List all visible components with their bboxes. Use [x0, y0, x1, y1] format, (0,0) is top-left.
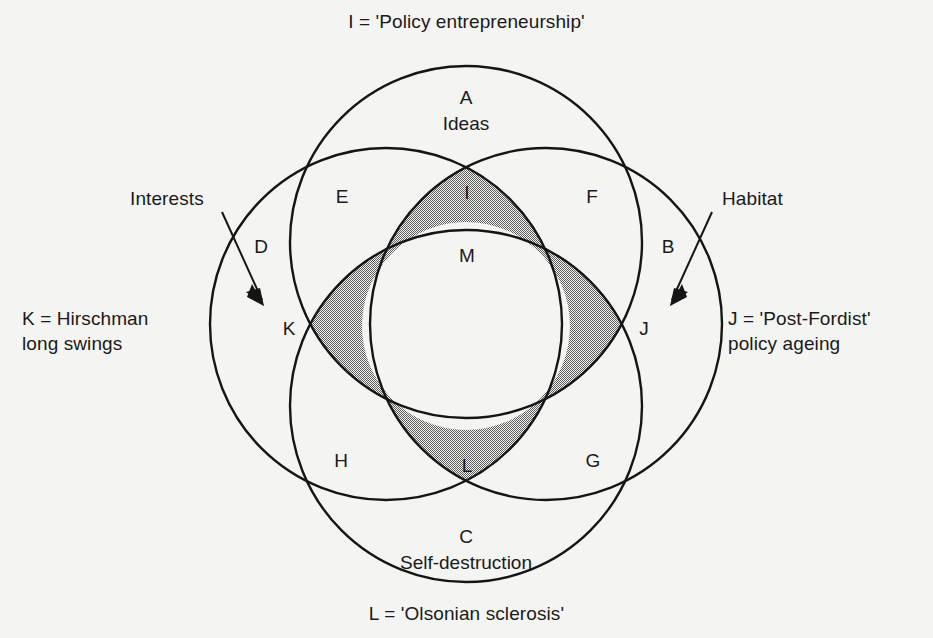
interests-pointer-label: Interests — [130, 186, 204, 211]
region-label-j: J — [639, 318, 649, 339]
region-label-d: D — [254, 236, 268, 257]
hirschman-legend: K = Hirschman long swings — [22, 306, 148, 356]
venn-diagram-figure: I = 'Policy entrepreneurship' Interests … — [0, 0, 933, 638]
region-label-l: L — [462, 455, 473, 476]
region-label-b: B — [662, 236, 675, 257]
region-name-ideas: Ideas — [443, 113, 489, 134]
region-name-self-destruction: Self-destruction — [400, 552, 532, 573]
region-label-h: H — [334, 450, 348, 471]
bottom-caption: L = 'Olsonian sclerosis' — [0, 601, 933, 626]
region-label-k: K — [283, 318, 296, 339]
region-label-c: C — [459, 526, 473, 547]
postfordist-legend: J = 'Post-Fordist' policy ageing — [728, 306, 871, 356]
region-label-f: F — [586, 186, 598, 207]
region-label-g: G — [586, 450, 601, 471]
habitat-pointer-label: Habitat — [722, 186, 783, 211]
top-caption: I = 'Policy entrepreneurship' — [0, 9, 933, 34]
region-label-a: A — [460, 87, 473, 108]
region-label-i: I — [464, 182, 469, 203]
region-label-m: M — [459, 245, 475, 266]
region-label-e: E — [336, 186, 349, 207]
